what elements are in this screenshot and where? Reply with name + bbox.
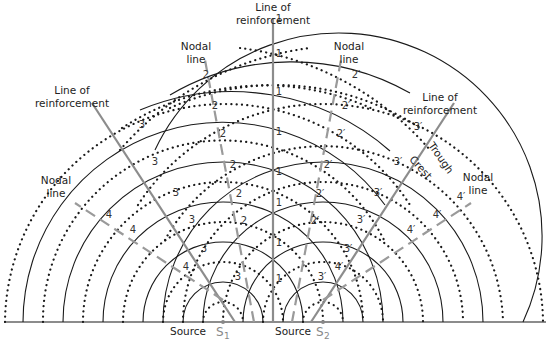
svg-text:2′: 2′: [352, 69, 361, 80]
center-label-line2: reinforcement: [236, 14, 310, 26]
left-nodal-label-2: line: [47, 187, 66, 199]
svg-text:S: S: [316, 325, 324, 339]
svg-text:Source: Source: [170, 325, 206, 337]
interference-diagram: 1 1 1 1 1 1 1 1 2 2 2 2 2 2 2′ 2′ 2′ 2′ …: [0, 0, 546, 343]
svg-text:2: 2: [212, 100, 218, 111]
source-s1: Source S 1: [170, 320, 230, 341]
svg-text:1: 1: [276, 126, 282, 137]
svg-text:2′: 2′: [342, 100, 351, 111]
right-inner-nodal-label-2: line: [340, 53, 359, 65]
svg-text:4: 4: [106, 209, 112, 220]
svg-text:Source: Source: [275, 325, 311, 337]
center-label-line1: Line of: [255, 1, 291, 13]
right-inner-nodal-label-1: Nodal: [334, 40, 364, 52]
left-reinf-label-1: Line of: [54, 84, 90, 96]
svg-text:4′: 4′: [433, 209, 442, 220]
svg-text:3: 3: [235, 271, 241, 282]
svg-text:3′: 3′: [318, 271, 327, 282]
svg-text:2′: 2′: [324, 159, 333, 170]
svg-text:3′: 3′: [374, 187, 383, 198]
svg-text:1: 1: [224, 331, 230, 341]
svg-text:1: 1: [276, 237, 282, 248]
svg-text:2: 2: [324, 331, 330, 341]
svg-text:3′: 3′: [357, 214, 366, 225]
svg-text:2′: 2′: [311, 215, 320, 226]
svg-text:S: S: [216, 325, 224, 339]
left-reinforcement-line: [92, 103, 235, 322]
svg-text:3: 3: [152, 156, 158, 167]
svg-text:3′: 3′: [394, 156, 403, 167]
svg-text:3: 3: [201, 243, 207, 254]
left-nodal-label-1: Nodal: [41, 174, 71, 186]
svg-text:2: 2: [241, 215, 247, 226]
svg-text:2: 2: [230, 159, 236, 170]
svg-text:2: 2: [203, 69, 209, 80]
left-reinf-label-2: reinforcement: [35, 97, 109, 109]
right-nodal-label-1: Nodal: [463, 171, 493, 183]
left-inner-nodal-label-2: line: [187, 53, 206, 65]
svg-text:4′: 4′: [457, 191, 466, 202]
right-reinf-label-1: Line of: [422, 91, 458, 103]
source-s2: Source S 2: [275, 320, 330, 341]
svg-text:3′: 3′: [414, 121, 423, 132]
svg-text:4′: 4′: [335, 261, 344, 272]
left-inner-nodal-label-1: Nodal: [181, 40, 211, 52]
svg-text:2: 2: [236, 188, 242, 199]
svg-text:3: 3: [189, 214, 195, 225]
svg-text:3′: 3′: [344, 243, 353, 254]
svg-text:1: 1: [276, 166, 282, 177]
svg-text:2: 2: [220, 128, 226, 139]
svg-text:1: 1: [276, 86, 282, 97]
svg-text:2′: 2′: [337, 128, 346, 139]
svg-text:1: 1: [276, 197, 282, 208]
svg-text:3: 3: [173, 187, 179, 198]
svg-text:1: 1: [276, 273, 282, 284]
svg-text:3: 3: [139, 119, 145, 130]
right-nodal-label-2: line: [469, 184, 488, 196]
s1-crests: [23, 92, 390, 322]
svg-text:4′: 4′: [407, 224, 416, 235]
svg-text:1: 1: [276, 48, 282, 59]
svg-text:4: 4: [130, 224, 136, 235]
svg-text:2′: 2′: [316, 188, 325, 199]
svg-text:4: 4: [183, 261, 189, 272]
right-reinf-label-2: reinforcement: [403, 104, 477, 116]
